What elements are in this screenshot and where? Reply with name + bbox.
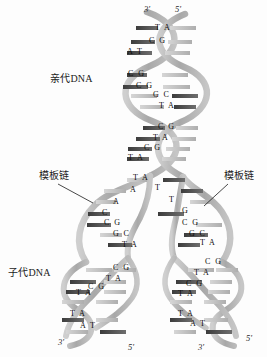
- template-strand-label-right: 模板链: [224, 171, 255, 181]
- base-pair: T A: [155, 24, 171, 32]
- unpaired-base-right: T: [155, 184, 160, 192]
- base-pair: T A: [194, 269, 210, 277]
- terminus-top-right: 5': [175, 5, 181, 14]
- terminus-bottom-right-3prime: 3': [198, 343, 204, 352]
- base-pair: T A: [178, 290, 194, 298]
- unpaired-base-right: T: [169, 196, 174, 204]
- base-pair: C G: [128, 70, 145, 78]
- base-pair: G C: [113, 230, 130, 238]
- parent-dna-label: 亲代DNA: [50, 74, 93, 84]
- terminus-top-left: 3': [144, 5, 150, 14]
- unpaired-base-right: G: [182, 207, 188, 215]
- base-pair: T A: [133, 174, 149, 182]
- base-pair: A T: [190, 320, 206, 328]
- base-pair: T A: [122, 241, 138, 249]
- base-pair: C G: [136, 82, 153, 90]
- base-pair: G C: [189, 230, 206, 238]
- base-pair: C G: [205, 258, 222, 266]
- template-strand-label-left: 模板链: [39, 171, 70, 181]
- unpaired-base-left: A: [113, 198, 119, 206]
- base-pair: T A: [178, 310, 194, 318]
- unpaired-base-left: A: [130, 186, 136, 194]
- base-pair: A T: [80, 322, 96, 330]
- base-pair: C G: [186, 280, 203, 288]
- base-pair: T A: [200, 239, 216, 247]
- base-pair: C G: [182, 219, 199, 227]
- base-pair: G C: [153, 91, 170, 99]
- base-pair: C G: [104, 219, 121, 227]
- base-pair: T A: [128, 154, 144, 162]
- base-pair: C G: [144, 144, 161, 152]
- terminus-bottom-left-3prime: 3': [58, 338, 64, 347]
- base-pair: C G: [158, 123, 175, 131]
- base-pair: C G: [113, 264, 130, 272]
- terminus-bottom-left-5prime: 5': [128, 343, 134, 352]
- base-pair: T A: [76, 289, 92, 297]
- unpaired-base-left: C: [102, 209, 107, 217]
- base-pair: C G: [149, 37, 166, 45]
- base-pair: T A: [159, 102, 175, 110]
- base-pair: T A: [70, 310, 86, 318]
- base-pair: T A: [106, 275, 122, 283]
- dna-replication-figure: 亲代DNA 子代DNA 模板链 模板链 3' 5' 3' 5' 3' 5' T …: [0, 0, 267, 357]
- base-pair: T A: [153, 134, 169, 142]
- terminus-bottom-right-5prime: 5': [246, 334, 252, 343]
- base-pair: A T: [127, 48, 143, 56]
- daughter-dna-label: 子代DNA: [8, 268, 51, 278]
